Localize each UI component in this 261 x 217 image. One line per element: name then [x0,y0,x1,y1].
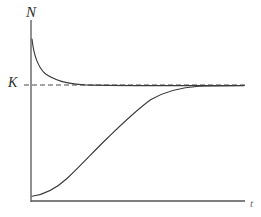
x-axis-label: t [250,198,253,209]
curve-below-carrying-capacity [32,86,244,197]
logistic-growth-figure: N K t [0,0,261,217]
curve-above-carrying-capacity [32,39,244,86]
plot-area [0,0,261,217]
carrying-capacity-label: K [8,76,17,90]
y-axis-label: N [26,5,36,20]
